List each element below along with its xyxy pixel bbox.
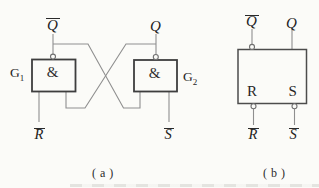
- sr-latch-figure: Q Q G1 G2 & & R S ( a ) Q Q R S R S ( b …: [0, 0, 319, 188]
- caption-b: ( b ): [263, 167, 286, 179]
- s-port-label: S: [289, 84, 297, 99]
- latch-s-input-bubble: [292, 104, 297, 109]
- rbar-input-label-b: R: [249, 127, 258, 142]
- gate1-name: G1: [10, 66, 24, 80]
- sbar-input-label-b: S: [290, 127, 297, 142]
- sbar-input-label-a: S: [165, 127, 172, 142]
- gate1-output-bubble: [51, 54, 56, 59]
- qbar-output-label-b: Q: [246, 14, 257, 29]
- q-output-label-a: Q: [150, 19, 161, 34]
- qbar-output-label-a: Q: [47, 18, 58, 33]
- rbar-input-label-a: R: [35, 127, 44, 142]
- q-output-label-b: Q: [286, 16, 297, 31]
- page-edge-artifact: [70, 184, 319, 187]
- gate2-and-symbol: &: [134, 66, 175, 81]
- r-port-label: R: [247, 84, 257, 99]
- caption-a: ( a ): [92, 167, 114, 179]
- latch-r-input-bubble: [251, 104, 256, 109]
- gate2-name: G2: [183, 70, 197, 84]
- gate1-and-symbol: &: [32, 65, 73, 80]
- latch-qbar-bubble: [250, 44, 255, 49]
- gate2-output-bubble: [153, 55, 158, 60]
